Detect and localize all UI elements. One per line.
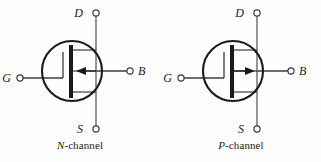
body-terminal-label: B xyxy=(299,64,307,78)
gate-terminal-node[interactable] xyxy=(178,75,184,81)
gate-terminal-label: G xyxy=(2,71,11,85)
drain-terminal-label: D xyxy=(73,6,83,20)
body-terminal-node[interactable] xyxy=(127,68,133,74)
mosfet-symbol-p-channel: D S G B P-channel xyxy=(161,0,321,162)
caption-suffix: -channel xyxy=(225,139,264,151)
body-arrow-head xyxy=(76,67,86,75)
figure-canvas: D S G B N-channel xyxy=(0,0,321,162)
body-arrow-head xyxy=(245,67,255,75)
source-terminal-label: S xyxy=(77,122,83,136)
caption-suffix: -channel xyxy=(64,139,103,151)
gate-terminal-label: G xyxy=(163,71,172,85)
drain-terminal-label: D xyxy=(234,6,244,20)
body-terminal-node[interactable] xyxy=(288,68,294,74)
caption-n-channel: N-channel xyxy=(0,139,160,151)
source-terminal-label: S xyxy=(238,122,244,136)
drain-terminal-node[interactable] xyxy=(93,10,99,16)
body-terminal-label: B xyxy=(138,64,146,78)
mosfet-symbol-n-channel: D S G B N-channel xyxy=(0,0,160,162)
source-terminal-node[interactable] xyxy=(93,126,99,132)
drain-terminal-node[interactable] xyxy=(254,10,260,16)
caption-p-channel: P-channel xyxy=(161,139,321,151)
gate-terminal-node[interactable] xyxy=(17,75,23,81)
source-terminal-node[interactable] xyxy=(254,126,260,132)
